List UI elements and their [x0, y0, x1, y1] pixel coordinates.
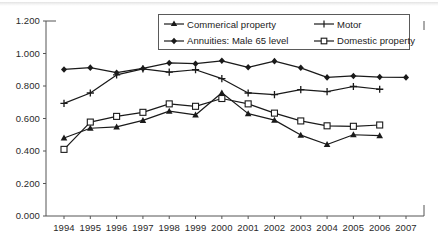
- data-point-marker-plus: [87, 89, 94, 96]
- data-point-marker-plus: [376, 86, 383, 93]
- data-point-marker-diamond: [87, 64, 93, 71]
- data-point-marker-plus: [323, 88, 330, 95]
- legend-marker-triangle-icon: [163, 19, 185, 29]
- data-point-marker-square-open: [324, 123, 330, 129]
- legend-label: Annuities: Male 65 level: [187, 36, 289, 46]
- data-point-marker-plus: [271, 91, 278, 98]
- y-axis-tick-label: 1.000: [0, 48, 40, 59]
- data-point-marker-diamond: [219, 58, 225, 65]
- data-point-marker-square-open: [166, 101, 172, 107]
- data-point-marker-diamond: [166, 60, 172, 67]
- data-point-marker-diamond: [245, 64, 251, 71]
- axis-frame: [46, 21, 424, 216]
- data-point-marker-plus: [60, 100, 67, 107]
- y-axis-tick-label: 1.200: [0, 15, 40, 26]
- data-point-marker-triangle: [219, 89, 226, 95]
- data-point-marker-diamond: [271, 58, 277, 65]
- data-series-layer: [60, 58, 409, 153]
- data-point-marker-diamond: [140, 65, 146, 72]
- y-axis-tick-label: 0.000: [0, 210, 40, 221]
- legend-marker-plus-icon: [313, 19, 335, 29]
- x-axis-tick-label: 2007: [389, 222, 423, 233]
- legend-item-domestic-property: Domestic property: [313, 36, 415, 46]
- legend-item-motor: Motor: [313, 19, 415, 29]
- data-point-marker-plus: [166, 69, 173, 76]
- data-point-marker-diamond: [403, 74, 409, 81]
- data-point-marker-square-open: [245, 101, 251, 107]
- y-axis-tick-label: 0.800: [0, 80, 40, 91]
- legend-item-commerical-property: Commerical property: [163, 19, 313, 29]
- series-domestic-property: [61, 96, 383, 153]
- line-chart: 0.0000.2000.4000.6000.8001.0001.200 1994…: [0, 0, 438, 248]
- data-point-marker-square-open: [193, 103, 199, 109]
- legend-label: Domestic property: [337, 36, 415, 46]
- chart-screenshot: 0.0000.2000.4000.6000.8001.0001.200 1994…: [0, 0, 438, 248]
- data-point-marker-triangle: [297, 132, 304, 138]
- data-point-marker-triangle: [166, 108, 173, 114]
- data-point-marker-square-open: [219, 96, 225, 102]
- data-point-marker-square-open: [61, 146, 67, 152]
- series-line: [64, 99, 380, 150]
- y-axis-tick-label: 0.400: [0, 145, 40, 156]
- data-point-marker-diamond: [193, 60, 199, 67]
- legend-label: Motor: [337, 20, 362, 30]
- data-point-marker-square-open: [271, 110, 277, 116]
- data-point-marker-square-open: [377, 122, 383, 128]
- data-point-marker-diamond: [377, 74, 383, 81]
- chart-legend: Commerical property Motor Annuities: Mal…: [158, 14, 410, 50]
- data-point-marker-square-open: [114, 113, 120, 119]
- data-point-marker-square-open: [298, 118, 304, 124]
- legend-item-annuities-male-65-level: Annuities: Male 65 level: [163, 36, 313, 46]
- legend-label: Commerical property: [187, 20, 276, 30]
- data-point-marker-plus: [350, 83, 357, 90]
- data-point-marker-diamond: [324, 74, 330, 81]
- y-axis-tick-label: 0.600: [0, 113, 40, 124]
- data-point-marker-diamond: [350, 73, 356, 80]
- y-axis-tick-label: 0.200: [0, 178, 40, 189]
- legend-marker-square-open-icon: [313, 36, 335, 46]
- data-point-marker-plus: [218, 75, 225, 82]
- data-point-marker-square-open: [140, 109, 146, 115]
- data-point-marker-plus: [297, 86, 304, 93]
- data-point-marker-diamond: [61, 66, 67, 73]
- data-point-marker-plus: [192, 66, 199, 73]
- data-point-marker-plus: [245, 89, 252, 96]
- data-point-marker-square-open: [87, 119, 93, 125]
- legend-marker-diamond-icon: [163, 36, 185, 46]
- data-point-marker-square-open: [350, 123, 356, 129]
- data-point-marker-diamond: [298, 65, 304, 72]
